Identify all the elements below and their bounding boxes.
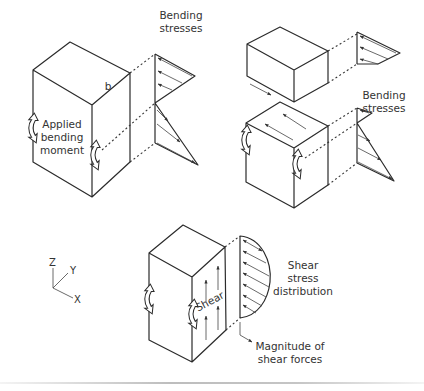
moment-arrow-icon xyxy=(145,284,154,314)
moment-label-line3: moment xyxy=(40,144,84,156)
moment-arrow-icon xyxy=(189,299,198,329)
shear-block: Shear Shear stress distribution Magnitud… xyxy=(145,225,333,365)
tall-block-bending: b Applied bending moment Bending stresse… xyxy=(29,9,203,197)
distribution-label-line2: stress xyxy=(287,272,318,284)
block-outline xyxy=(247,27,328,102)
bending-stress-arrows xyxy=(360,36,396,64)
moment-arrow-icon xyxy=(91,140,100,170)
moment-arrow-icon xyxy=(293,149,302,179)
axis-label-y: Y xyxy=(69,265,77,276)
axis-label-x: X xyxy=(74,294,81,305)
top-face-arrow xyxy=(283,114,306,129)
magnitude-label-line2: shear forces xyxy=(258,353,323,365)
top-face-arrow xyxy=(265,124,293,140)
dimension-label-b: b xyxy=(105,80,112,92)
bending-stress-profile xyxy=(155,54,198,165)
moment-label-line1: Applied xyxy=(42,118,81,130)
projection-lines xyxy=(328,34,357,83)
stress-label-line1: Bending xyxy=(159,9,202,21)
stress-label-line1: Bending xyxy=(362,89,405,101)
magnitude-leader-arrow xyxy=(240,322,252,342)
axis-label-z: Z xyxy=(49,257,56,268)
magnitude-label-line1: Magnitude of xyxy=(255,340,324,352)
shear-stress-arrows xyxy=(243,240,269,313)
projection-lines xyxy=(305,108,357,185)
lower-block-bending xyxy=(242,102,394,208)
moment-label-line2: bending xyxy=(41,131,84,143)
bending-stress-arrows xyxy=(358,110,392,179)
projection-lines xyxy=(102,54,155,162)
moment-arrow-icon xyxy=(29,113,38,143)
sliding-arrow xyxy=(250,84,271,95)
distribution-label-line1: Shear xyxy=(288,259,319,271)
projection-lines xyxy=(225,236,240,330)
upper-block-bending: Bending stresses xyxy=(247,27,406,114)
stress-diagram-figure: b Applied bending moment Bending stresse… xyxy=(0,0,424,391)
stress-label-line2: stresses xyxy=(159,22,202,34)
coordinate-axes: Z Y X xyxy=(49,257,81,305)
bottom-divider xyxy=(0,382,424,384)
moment-arrow-icon xyxy=(242,125,251,155)
bending-stress-profile xyxy=(357,32,400,64)
shear-face-label: Shear xyxy=(193,288,226,313)
block-outline xyxy=(246,102,328,208)
bending-stress-profile xyxy=(357,108,394,181)
distribution-label-line3: distribution xyxy=(273,285,333,297)
